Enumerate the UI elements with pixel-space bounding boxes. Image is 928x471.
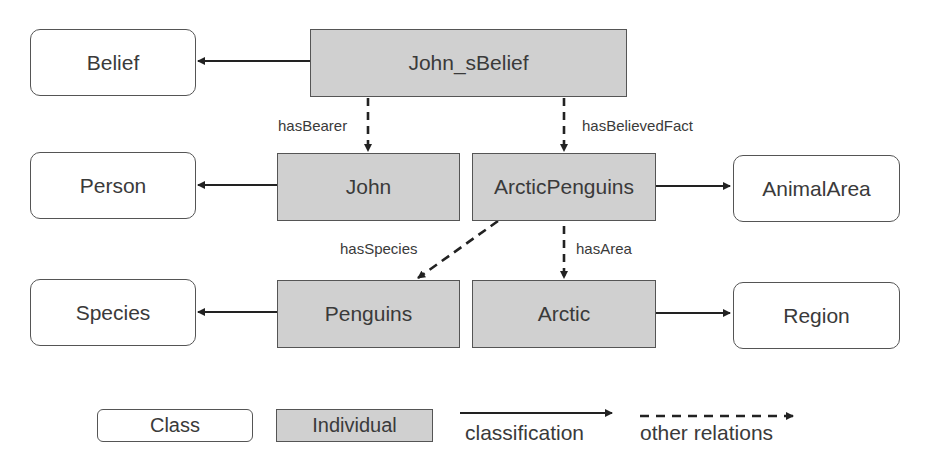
node-label: ArcticPenguins [494, 175, 634, 199]
edge-label-hasbelievedfact: hasBelievedFact [582, 117, 693, 134]
node-label: AnimalArea [762, 177, 871, 201]
node-arcticpenguins: ArcticPenguins [472, 153, 656, 221]
node-animalarea: AnimalArea [733, 155, 900, 222]
node-region: Region [733, 282, 900, 349]
node-label: Region [783, 304, 850, 328]
node-john-sbelief: John_sBelief [310, 29, 627, 97]
node-label: Arctic [538, 302, 591, 326]
node-label: John [346, 175, 392, 199]
node-label: Penguins [325, 302, 413, 326]
node-belief: Belief [30, 29, 196, 96]
edge-hasspecies [418, 221, 498, 278]
edge-label-hasarea: hasArea [576, 240, 632, 257]
node-person: Person [30, 152, 196, 219]
node-label: Person [80, 174, 147, 198]
edge-label-hasspecies: hasSpecies [340, 240, 418, 257]
legend-class-label: Class [150, 414, 200, 437]
node-species: Species [30, 279, 196, 346]
node-label: Belief [87, 51, 140, 75]
node-john: John [277, 153, 460, 221]
legend-individual-label: Individual [312, 414, 397, 437]
legend-individual-box: Individual [276, 409, 433, 442]
legend-class-box: Class [97, 409, 253, 442]
legend-other-relations-label: other relations [640, 421, 773, 445]
node-label: John_sBelief [408, 51, 528, 75]
edge-label-hasbearer: hasBearer [278, 117, 347, 134]
node-penguins: Penguins [277, 280, 460, 348]
legend-classification-label: classification [465, 421, 584, 445]
node-arctic: Arctic [472, 280, 656, 348]
node-label: Species [76, 301, 151, 325]
